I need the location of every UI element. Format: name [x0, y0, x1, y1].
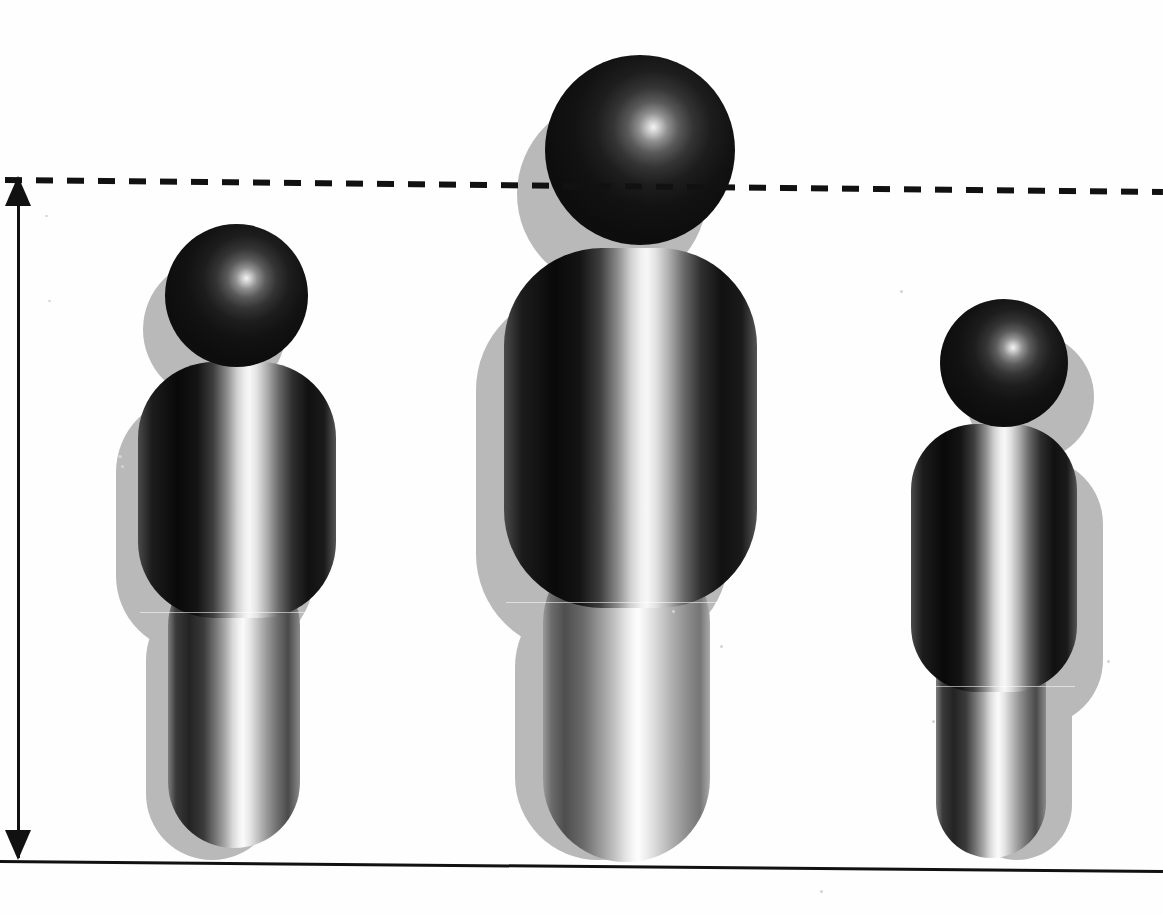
scan-fleck [672, 610, 675, 613]
scan-fleck [1107, 660, 1110, 663]
ground-baseline [0, 860, 1163, 873]
person-left-torso [138, 362, 336, 618]
person-center-head [545, 55, 735, 245]
person-center-torso [504, 248, 757, 608]
person-right-head [940, 299, 1068, 427]
height-measure-arrow-head-bottom [5, 830, 31, 860]
scan-fleck [118, 455, 122, 458]
height-measure-arrow-head-top [5, 176, 31, 206]
scan-fleck [45, 215, 48, 217]
scan-fleck [900, 290, 903, 293]
person-left-head [165, 224, 308, 367]
scan-fleck [932, 720, 935, 723]
scan-fleck [820, 890, 823, 893]
pictogram-canvas [0, 0, 1163, 915]
height-measure-arrow-shaft [17, 184, 20, 858]
person-right-torso [911, 424, 1077, 692]
scan-fleck [121, 465, 124, 468]
scan-fleck [720, 645, 723, 648]
scan-fleck [48, 300, 51, 302]
